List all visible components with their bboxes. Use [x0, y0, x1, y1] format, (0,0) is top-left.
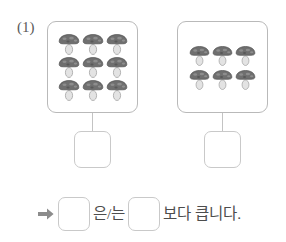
mushroom-icon — [105, 56, 129, 78]
mushroom-icon — [188, 45, 211, 66]
mushroom-row — [57, 79, 129, 101]
count-answer-box-left[interactable] — [74, 131, 111, 168]
worksheet-problem: (1) — [0, 0, 286, 242]
count-answer-box-right[interactable] — [204, 131, 241, 168]
mushroom-grid-right — [178, 22, 267, 112]
mushroom-grid-left — [48, 22, 137, 112]
group-box-left — [47, 21, 138, 113]
mushroom-icon — [105, 79, 129, 101]
mushroom-icon — [81, 79, 105, 101]
connector-line-right — [222, 113, 223, 132]
mushroom-icon — [234, 69, 257, 90]
particle-label: 은/는 — [91, 206, 127, 222]
mushroom-icon — [81, 56, 105, 78]
mushroom-icon — [57, 79, 81, 101]
connector-line-left — [92, 113, 93, 132]
mushroom-icon — [234, 45, 257, 66]
group-box-right — [177, 21, 268, 113]
mushroom-icon — [105, 33, 129, 55]
mushroom-icon — [188, 69, 211, 90]
problem-number-label: (1) — [17, 19, 35, 36]
mushroom-icon — [211, 69, 234, 90]
sentence-blank-first[interactable] — [58, 197, 90, 231]
mushroom-icon — [211, 45, 234, 66]
mushroom-icon — [57, 56, 81, 78]
predicate-label: 보다 큽니다. — [161, 206, 243, 222]
mushroom-row — [57, 56, 129, 78]
sentence-blank-second[interactable] — [128, 197, 160, 231]
mushroom-row — [188, 69, 257, 90]
right-arrow-icon — [38, 207, 54, 221]
mushroom-icon — [57, 33, 81, 55]
mushroom-row — [57, 33, 129, 55]
mushroom-icon — [81, 33, 105, 55]
comparison-sentence: 은/는 보다 큽니다. — [38, 193, 278, 235]
mushroom-row — [188, 45, 257, 66]
